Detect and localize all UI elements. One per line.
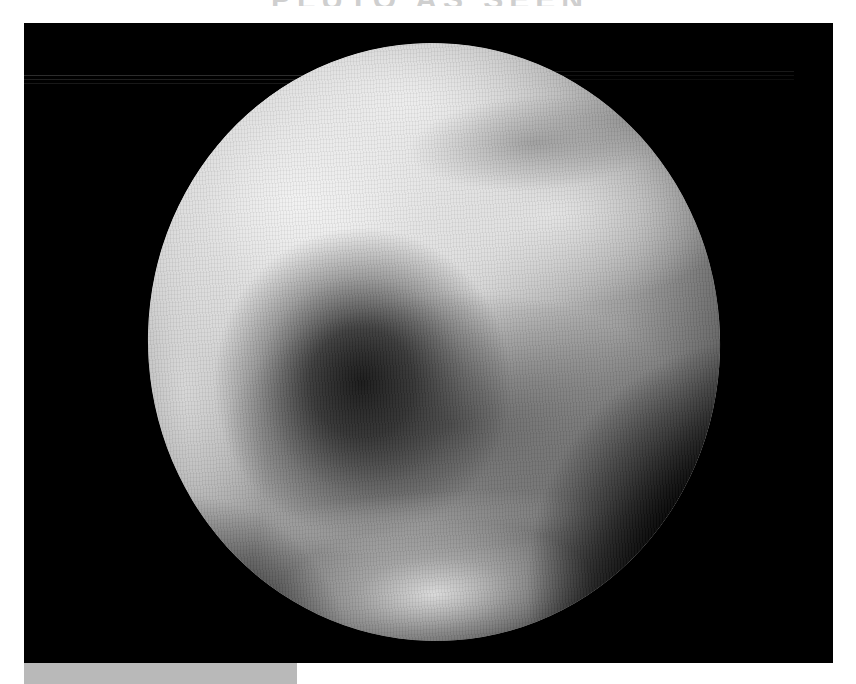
pixel-scan-texture: [128, 24, 740, 660]
caption-placeholder-box: [24, 663, 297, 684]
pluto-disk: [128, 24, 740, 660]
scanline-artifact-right: [554, 69, 794, 83]
planet-image-frame: [24, 23, 833, 663]
page-title-fragment: PLUTO AS SEEN: [180, 0, 680, 6]
